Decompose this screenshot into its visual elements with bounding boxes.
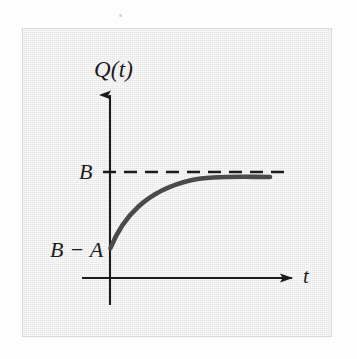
intercept-label: B − A	[50, 239, 103, 261]
plot-canvas	[0, 0, 357, 359]
y-axis-label: Q(t)	[94, 58, 133, 81]
exponential-curve	[111, 177, 271, 248]
figure-root: Q(t) B B − A t	[0, 0, 357, 359]
asymptote-label: B	[79, 161, 93, 183]
x-axis-label: t	[303, 266, 309, 287]
